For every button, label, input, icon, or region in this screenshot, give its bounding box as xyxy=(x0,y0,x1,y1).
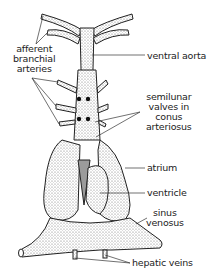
heart-diagram: afferent branchial arteries ventral aort… xyxy=(0,0,213,277)
conus-arteriosus-shape xyxy=(56,70,108,140)
label-afferent-branchial-arteries: afferent branchial arteries xyxy=(13,44,55,74)
label-ventral-aorta: ventral aorta xyxy=(147,51,206,61)
label-ventricle: ventricle xyxy=(147,188,187,198)
heart-illustration xyxy=(0,0,213,277)
label-line: arteriosus xyxy=(146,122,192,132)
label-sinus-venosus: sinus venosus xyxy=(146,208,184,228)
label-atrium: atrium xyxy=(147,163,177,173)
label-hepatic-veins: hepatic veins xyxy=(132,258,193,268)
label-line: venosus xyxy=(146,218,184,228)
label-line: arteries xyxy=(13,64,55,74)
label-semilunar-valves: semilunar valves in conus arteriosus xyxy=(146,92,192,132)
sinus-venosus-shape xyxy=(19,218,163,259)
